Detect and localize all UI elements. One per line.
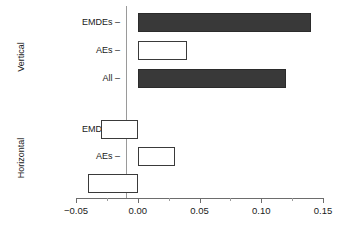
category-label-vertical-all: All – — [20, 73, 120, 83]
bar-vertical-aes — [138, 41, 187, 60]
bar-horizontal-emdes — [101, 120, 138, 139]
x-tick-major-1 — [138, 198, 139, 203]
x-tick-minor-2 — [230, 198, 231, 201]
x-tick-major-3 — [261, 198, 262, 203]
x-tick-minor-0 — [107, 198, 108, 201]
x-tick-major-0 — [76, 198, 77, 203]
category-label-vertical-aes: AEs – — [20, 45, 120, 55]
x-tick-label-1: 0.00 — [129, 205, 148, 216]
bar-chart: Vertical Horizontal EMDEs – AEs – All – … — [0, 0, 343, 228]
category-label-horizontal-aes: AEs – — [20, 151, 120, 161]
x-tick-major-4 — [323, 198, 324, 203]
bar-horizontal-aes — [138, 147, 175, 166]
x-tick-label-2: 0.05 — [190, 205, 209, 216]
x-tick-label-0: −0.05 — [64, 205, 88, 216]
x-tick-major-2 — [200, 198, 201, 203]
bar-vertical-all — [138, 69, 286, 88]
x-tick-minor-3 — [292, 198, 293, 201]
category-label-vertical-emdes: EMDEs – — [20, 17, 120, 27]
bar-horizontal-all — [88, 174, 137, 193]
bar-vertical-emdes — [138, 13, 311, 32]
zero-reference-line — [126, 6, 127, 198]
x-tick-label-4: 0.15 — [314, 205, 333, 216]
x-tick-label-3: 0.10 — [252, 205, 271, 216]
x-tick-minor-1 — [169, 198, 170, 201]
